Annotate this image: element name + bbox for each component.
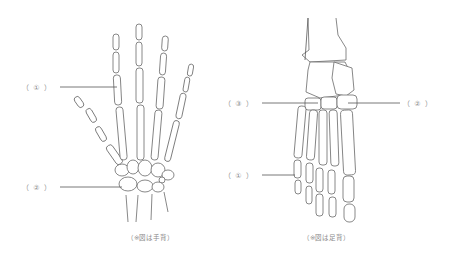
foot-caption: （※図は足背） (303, 232, 350, 242)
hand-caption: （※図は手背） (127, 232, 174, 242)
hand-label-2: （ ② ） (22, 182, 52, 192)
foot-label-2: （ ② ） (403, 98, 433, 108)
hand-label-1: （ ① ） (22, 82, 52, 92)
hand-skeleton-illustration (60, 24, 194, 222)
foot-label-1: （ ① ） (224, 170, 254, 180)
anatomy-diagram (0, 0, 452, 253)
foot-skeleton-illustration (262, 18, 400, 222)
foot-label-3: （ ③ ） (224, 98, 254, 108)
